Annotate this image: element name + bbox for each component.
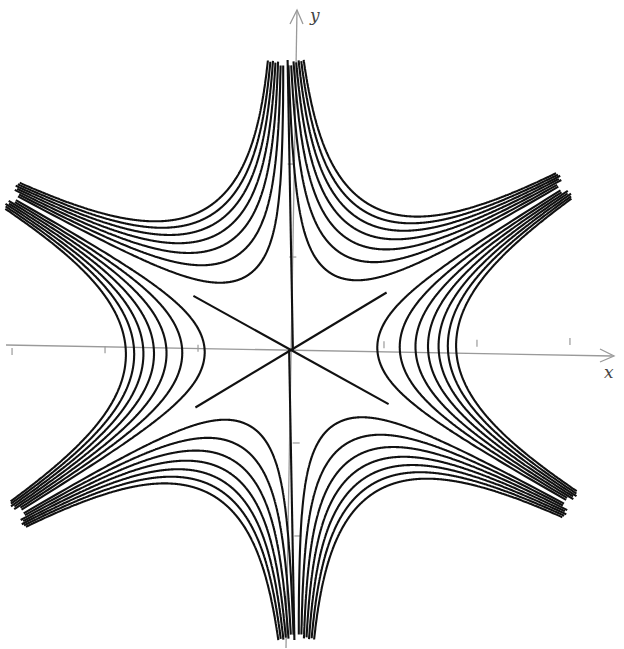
level-curve <box>23 461 286 638</box>
level-curve <box>304 447 567 638</box>
y-axis-label: y <box>309 5 320 25</box>
level-curve <box>15 62 278 253</box>
x-axis-label: x <box>604 362 614 382</box>
level-curve <box>296 62 559 239</box>
zero-level-line <box>195 350 291 408</box>
x-axis <box>6 345 612 356</box>
level-curve <box>456 199 577 492</box>
zero-level-line <box>291 293 387 351</box>
level-curve <box>448 196 577 493</box>
level-curve <box>6 206 135 503</box>
zero-level-line <box>291 350 389 404</box>
contour-figure: x y <box>0 0 624 649</box>
level-curves <box>5 60 576 640</box>
zero-level-line <box>193 296 291 350</box>
level-curve <box>5 209 126 502</box>
